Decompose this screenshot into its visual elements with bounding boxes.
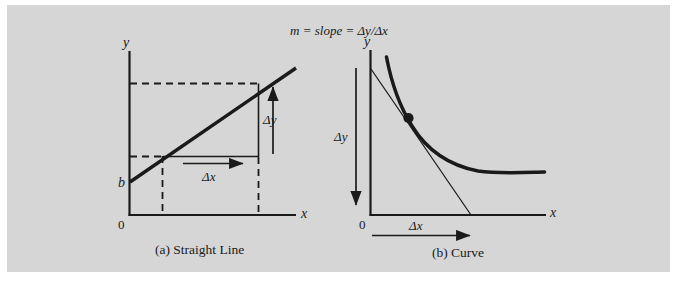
panel-b-x-axis-label: x [550,206,556,220]
panel-a-delta-x-label: Δx [202,170,215,183]
panel-b-group [356,50,546,236]
figure-title-formula: m = slope = Δy/Δx [290,24,388,37]
panel-b-delta-y-label: Δy [334,130,347,143]
panel-b-y-axis-label: y [364,35,370,49]
panel-b-origin-label: 0 [359,218,366,231]
panel-a-x-axis-label: x [301,207,307,221]
panel-a-group [128,51,296,216]
panel-a-delta-y-label: Δy [263,113,276,126]
figure-root: m = slope = Δy/Δx y x 0 b Δy Δx (a) Stra… [0,0,678,284]
panel-b-tangent-line [371,69,471,215]
panel-b-delta-x-label: Δx [409,219,422,232]
panel-a-y-axis-label: y [123,36,129,50]
panel-a-intercept-label: b [118,176,125,190]
panel-a-origin-label: 0 [118,218,125,231]
panel-b-caption: (b) Curve [432,246,484,260]
panel-a-caption: (a) Straight Line [155,243,244,257]
panel-b-tangent-point-marker [403,113,413,123]
